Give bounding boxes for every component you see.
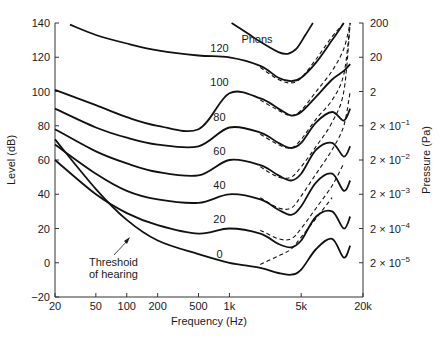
y-tick-label: 100	[32, 86, 50, 98]
phon-curve	[55, 160, 350, 247]
phon-curve	[55, 145, 350, 215]
curve-label: 0	[216, 248, 222, 260]
y-tick-label: 140	[32, 17, 50, 29]
x-tick-label: 20k	[354, 300, 372, 312]
y-tick-label: 120	[32, 51, 50, 63]
y-tick-label: 0	[44, 257, 50, 269]
curve-label: 80	[213, 111, 225, 123]
x-tick-label: 1k	[224, 300, 236, 312]
curve-label: 20	[213, 213, 225, 225]
y2-tick-label: 2 × 10−2	[370, 152, 411, 166]
y-axis-title: Level (dB)	[5, 135, 17, 185]
y-tick-label: −20	[31, 291, 50, 303]
annotation-line-1: Threshoid	[89, 256, 138, 268]
phon-curve-dashed	[260, 23, 350, 178]
equal-loudness-chart: 140120100806040200−2020501002005001k5k20…	[0, 0, 444, 344]
curve-labels: 120100806040200	[210, 42, 228, 259]
x-axis-title: Frequency (Hz)	[171, 315, 247, 327]
x-tick-label: 5k	[295, 300, 307, 312]
x-tick-label: 100	[118, 300, 136, 312]
y-tick-label: 80	[38, 120, 50, 132]
phon-curve-dashed	[260, 198, 332, 265]
legend-title: Phons	[241, 33, 273, 45]
x-tick-label: 200	[148, 300, 166, 312]
y-tick-label: 20	[38, 223, 50, 235]
y2-tick-label: 20	[370, 51, 382, 63]
curve-label: 100	[210, 76, 228, 88]
y2-tick-label: 200	[370, 17, 388, 29]
y2-axis-title: Pressure (Pa)	[420, 126, 432, 194]
curve-label: 60	[213, 145, 225, 157]
phon-curve	[70, 23, 344, 81]
curve-label: 40	[213, 179, 225, 191]
x-tick-label: 500	[189, 300, 207, 312]
y-tick-label: 40	[38, 188, 50, 200]
y2-tick-label: 2 × 10−3	[370, 186, 411, 200]
annotation-line-2: of hearing	[89, 268, 138, 280]
phon-curve	[55, 109, 350, 148]
y2-tick-label: 2 × 10−4	[370, 221, 411, 235]
y-tick-label: 60	[38, 154, 50, 166]
y2-tick-label: 2 × 10−1	[370, 118, 411, 132]
x-tick-label: 50	[90, 300, 102, 312]
curve-label: 120	[210, 42, 228, 54]
annotation-arrow-icon	[114, 237, 130, 255]
curves	[55, 23, 350, 275]
phon-curve-dashed	[260, 23, 350, 148]
y2-tick-label: 2	[370, 86, 376, 98]
x-tick-label: 20	[49, 300, 61, 312]
y2-tick-label: 2 × 10−5	[370, 255, 411, 269]
